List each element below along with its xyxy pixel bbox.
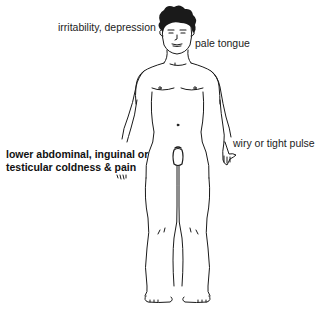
label-abdominal-coldness-pain: lower abdominal, inguinal or testicular … — [6, 148, 148, 174]
left-hand — [117, 175, 126, 179]
right-arm — [211, 71, 231, 142]
feet — [145, 296, 210, 303]
legs — [145, 166, 210, 296]
neck — [164, 50, 191, 63]
hair — [159, 5, 197, 33]
label-wiry-tight-pulse: wiry or tight pulse — [233, 137, 315, 150]
genitals — [173, 149, 183, 166]
label-abdominal-line2: testicular coldness & pain — [6, 161, 148, 174]
label-abdominal-line1: lower abdominal, inguinal or — [6, 148, 148, 161]
torso-outline — [136, 63, 221, 104]
label-pale-tongue: pale tongue — [195, 37, 250, 50]
label-irritability-depression: irritability, depression — [58, 21, 156, 34]
left-arm — [122, 71, 144, 142]
